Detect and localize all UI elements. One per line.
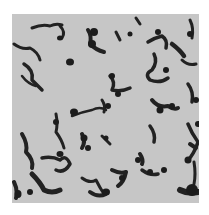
micrograph-image (12, 14, 199, 203)
cell-field (12, 14, 199, 203)
